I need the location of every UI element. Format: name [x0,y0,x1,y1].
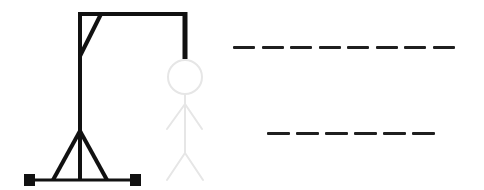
hanged-figure [167,60,203,180]
letter-blank [433,46,455,49]
letter-blank [267,132,290,135]
letter-blank [347,46,369,49]
word-1-blanks [233,46,461,49]
letter-blank [325,132,348,135]
letter-blank [233,46,255,49]
hangman-drawing [0,0,484,190]
gallows-leg-left [53,131,80,180]
letter-blank [296,132,319,135]
figure-right-arm [185,104,202,129]
hangman-game [0,0,484,190]
letter-blank [376,46,398,49]
word-2-blanks [267,132,441,135]
figure-head [168,60,202,94]
gallows-foot-right [130,174,141,186]
gallows [24,12,186,186]
letter-blank [383,132,406,135]
letter-blank [290,46,312,49]
gallows-foot-left [24,174,35,186]
letter-blank [412,132,435,135]
gallows-brace [80,14,101,56]
letter-blank [404,46,426,49]
figure-right-leg [185,153,203,180]
gallows-leg-right [80,131,107,180]
letter-blank [262,46,284,49]
figure-left-leg [167,153,185,180]
figure-left-arm [167,104,185,129]
letter-blank [319,46,341,49]
letter-blank [354,132,377,135]
